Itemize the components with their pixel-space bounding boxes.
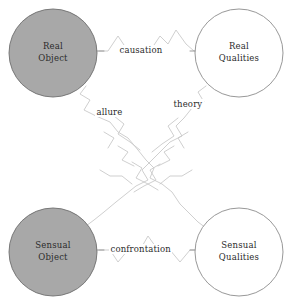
edge-lines-group [80,30,206,262]
edge-label-confrontation: confrontation [109,244,172,254]
edge-line-center-filament-10 [178,132,188,148]
edge-line-center-filament-1 [114,116,140,150]
edge-label-theory: theory [172,99,204,109]
edge-line-center-filament-9 [104,132,114,148]
node-sensual-object[interactable] [9,208,97,296]
edge-label-allure: allure [95,107,124,117]
node-sensual-qualities[interactable] [195,208,283,296]
edge-line-center-filament-5 [118,146,134,166]
edge-line-center-filament-7 [100,170,132,184]
edge-line-center-filament-8 [160,170,192,184]
node-real-object[interactable] [9,9,97,97]
node-real-qualities[interactable] [195,9,283,97]
connector-stubs-group [90,51,202,250]
edge-line-center-filament-6 [158,146,174,166]
fourfold-diagram: Real Object Real Qualities Sensual Objec… [0,0,292,303]
edge-label-causation: causation [118,45,164,55]
